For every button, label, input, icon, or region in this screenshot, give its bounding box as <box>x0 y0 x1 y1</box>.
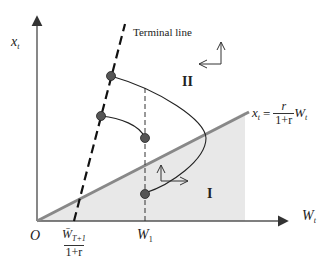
intercept-denominator: 1+r <box>64 245 85 259</box>
origin-label: O <box>30 229 40 243</box>
region-ii-direction-arrows <box>199 42 221 64</box>
y-axis-label: xt <box>11 35 19 51</box>
eq-equals: = <box>263 107 270 120</box>
eq-lhs: xt <box>252 106 260 122</box>
region-ii-label: II <box>182 75 193 89</box>
w1-tick-label: W1 <box>137 228 153 244</box>
region-i-label: I <box>207 187 212 201</box>
terminal-point-lower <box>97 112 106 121</box>
w1-point-upper <box>141 134 150 143</box>
trajectory-inner <box>101 116 145 138</box>
y-axis-subscript: t <box>17 42 19 51</box>
x-axis-symbol: W <box>302 208 314 223</box>
intercept-numerator: W̄T+1 <box>60 228 88 245</box>
x-axis-label: Wt <box>302 209 316 225</box>
boundary-equation: xt = r 1+r Wt <box>252 100 307 127</box>
w1-point-lower <box>141 190 150 199</box>
x-axis-subscript: t <box>314 216 316 225</box>
terminal-line-label: Terminal line <box>133 27 192 38</box>
terminal-intercept-label: W̄T+1 1+r <box>60 228 88 259</box>
eq-numerator: r <box>279 100 288 113</box>
eq-denominator: 1+r <box>273 113 294 127</box>
eq-rhs: Wt <box>294 106 307 122</box>
eq-fraction: r 1+r <box>273 100 294 127</box>
diagram-canvas <box>0 0 328 269</box>
phase-diagram: xt Wt O Terminal line II I xt = r 1+r Wt… <box>0 0 328 269</box>
terminal-point-upper <box>107 72 116 81</box>
